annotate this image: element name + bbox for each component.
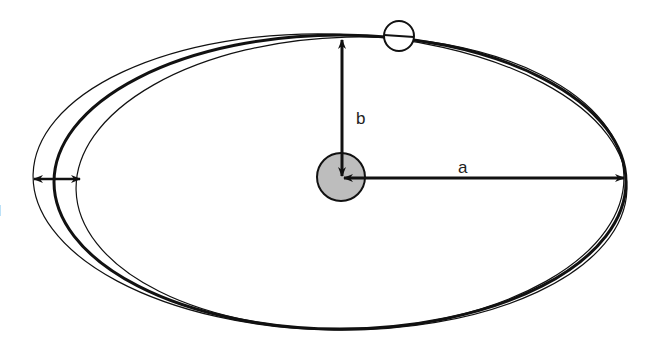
label-a: a [458, 158, 468, 177]
label-b: b [356, 109, 365, 128]
label-left-fragment: l [0, 203, 1, 219]
orbit-diagram: b a l [0, 0, 668, 348]
